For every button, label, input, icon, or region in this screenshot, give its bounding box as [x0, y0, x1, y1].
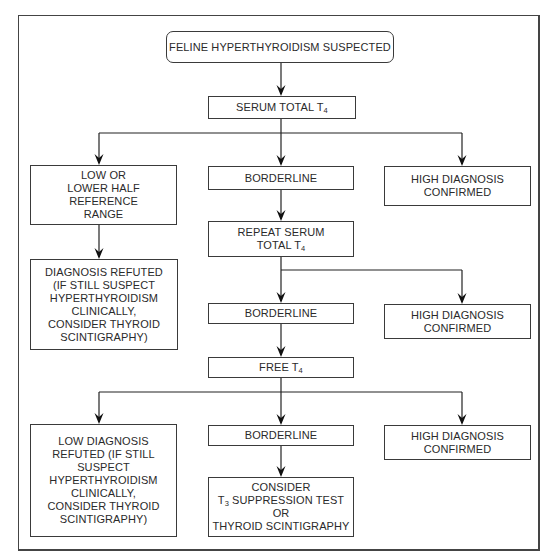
- node-text: FELINE HYPERTHYROIDISM SUSPECTED: [169, 41, 391, 53]
- node-serum-total-t4: SERUM TOTAL T4: [208, 96, 356, 119]
- node-diagnosis-refuted-1: DIAGNOSIS REFUTED(IF STILL SUSPECTHYPERT…: [30, 259, 178, 350]
- node-text: SUSPECT: [77, 461, 130, 473]
- node-text: LOW DIAGNOSIS: [58, 435, 149, 447]
- node-text-line: FREE T4: [259, 361, 303, 374]
- node-text: RANGE: [84, 208, 124, 220]
- node-text-line: LOWER HALF: [67, 182, 140, 195]
- node-text-line: SCINTIGRAPHY): [60, 331, 147, 344]
- node-text: HIGH DIAGNOSIS: [411, 309, 504, 321]
- node-text-line: BORDERLINE: [245, 307, 318, 320]
- node-text-line: LOW DIAGNOSIS: [58, 435, 149, 448]
- node-borderline-2: BORDERLINE: [208, 303, 354, 324]
- node-text-line: HIGH DIAGNOSIS: [411, 173, 504, 186]
- node-text-line: HYPERTHYROIDISM: [49, 474, 157, 487]
- node-text: BORDERLINE: [245, 307, 318, 319]
- node-text: BORDERLINE: [245, 429, 318, 441]
- node-text: CONFIRMED: [424, 443, 492, 455]
- node-text: SCINTIGRAPHY): [60, 331, 147, 343]
- node-text-line: CONFIRMED: [424, 322, 492, 335]
- node-text-line: BORDERLINE: [245, 172, 318, 185]
- node-text-line: LOW OR: [81, 169, 126, 182]
- node-text-line: T3 SUPPRESSION TEST: [218, 494, 344, 507]
- node-text: CONFIRMED: [424, 186, 492, 198]
- subscript: 4: [301, 244, 305, 253]
- node-text: OR: [273, 507, 290, 519]
- node-text: CLINICALLY,: [71, 487, 136, 499]
- node-repeat-serum-total-t4: REPEAT SERUMTOTAL T4: [208, 221, 354, 257]
- node-text-line: CONFIRMED: [424, 443, 492, 456]
- node-text: LOW OR: [81, 169, 126, 181]
- node-text-line: CONSIDER THYROID: [48, 318, 160, 331]
- node-borderline-3: BORDERLINE: [208, 425, 354, 446]
- node-text-line: CONSIDER: [252, 481, 311, 494]
- node-text-line: HIGH DIAGNOSIS: [411, 430, 504, 443]
- node-consider-t3-or-scintigraphy: CONSIDERT3 SUPPRESSION TESTORTHYROID SCI…: [208, 477, 354, 537]
- node-high-2: HIGH DIAGNOSISCONFIRMED: [384, 304, 531, 339]
- node-text-line: THYROID SCINTIGRAPHY: [212, 520, 349, 533]
- node-text-line: HYPERTHYROIDISM: [50, 292, 158, 305]
- node-text: HIGH DIAGNOSIS: [411, 430, 504, 442]
- node-text-line: CLINICALLY,: [72, 305, 137, 318]
- node-text-line: RANGE: [84, 208, 124, 221]
- node-text-line: REFERENCE: [69, 195, 138, 208]
- node-text: CONSIDER THYROID: [48, 318, 160, 330]
- node-text: (IF STILL SUSPECT: [53, 279, 155, 291]
- node-text-line: REPEAT SERUM: [238, 226, 325, 239]
- node-text: CONFIRMED: [424, 322, 492, 334]
- node-text: SUPPRESSION TEST: [229, 494, 344, 506]
- node-high-1: HIGH DIAGNOSISCONFIRMED: [384, 166, 531, 206]
- node-text: BORDERLINE: [245, 172, 318, 184]
- node-text: THYROID SCINTIGRAPHY: [212, 520, 349, 532]
- node-text: HYPERTHYROIDISM: [49, 474, 157, 486]
- node-text: FREE T: [259, 361, 299, 373]
- node-text: DIAGNOSIS REFUTED: [45, 266, 163, 278]
- node-text-line: CLINICALLY,: [71, 487, 136, 500]
- node-text-line: BORDERLINE: [245, 429, 318, 442]
- subscript: 4: [299, 366, 303, 375]
- node-text-line: SCINTIGRAPHY): [60, 513, 147, 526]
- node-text-line: HIGH DIAGNOSIS: [411, 309, 504, 322]
- node-text-line: OR: [273, 507, 290, 520]
- node-text: TOTAL T: [257, 239, 301, 251]
- node-text: CLINICALLY,: [72, 305, 137, 317]
- subscript: 4: [324, 106, 328, 115]
- node-low-3: LOW DIAGNOSISREFUTED (IF STILLSUSPECTHYP…: [30, 424, 177, 537]
- node-text: REPEAT SERUM: [238, 226, 325, 238]
- node-text: HYPERTHYROIDISM: [50, 292, 158, 304]
- node-start: FELINE HYPERTHYROIDISM SUSPECTED: [166, 31, 394, 63]
- node-low-1: LOW ORLOWER HALFREFERENCERANGE: [30, 165, 177, 225]
- node-text: HIGH DIAGNOSIS: [411, 173, 504, 185]
- node-text-line: TOTAL T4: [257, 239, 306, 252]
- node-text: LOWER HALF: [67, 182, 140, 194]
- node-text: SCINTIGRAPHY): [60, 513, 147, 525]
- node-text: SERUM TOTAL T: [236, 101, 324, 113]
- node-text-line: CONSIDER THYROID: [47, 500, 159, 513]
- node-text: T: [218, 494, 225, 506]
- flowchart-canvas: FELINE HYPERTHYROIDISM SUSPECTED SERUM T…: [0, 0, 554, 559]
- node-text: CONSIDER THYROID: [47, 500, 159, 512]
- node-text: REFUTED (IF STILL: [52, 448, 155, 460]
- node-text-line: SUSPECT: [77, 461, 130, 474]
- node-text: REFERENCE: [69, 195, 138, 207]
- node-borderline-1: BORDERLINE: [208, 166, 354, 190]
- node-high-3: HIGH DIAGNOSISCONFIRMED: [384, 425, 531, 460]
- node-text: CONSIDER: [252, 481, 311, 493]
- node-text-line: REFUTED (IF STILL: [52, 448, 155, 461]
- node-text-line: DIAGNOSIS REFUTED: [45, 266, 163, 279]
- node-text-line: (IF STILL SUSPECT: [53, 279, 155, 292]
- node-text-line: CONFIRMED: [424, 186, 492, 199]
- node-text-line: SERUM TOTAL T4: [236, 101, 328, 114]
- node-free-t4: FREE T4: [208, 357, 354, 378]
- node-text-line: FELINE HYPERTHYROIDISM SUSPECTED: [169, 41, 391, 54]
